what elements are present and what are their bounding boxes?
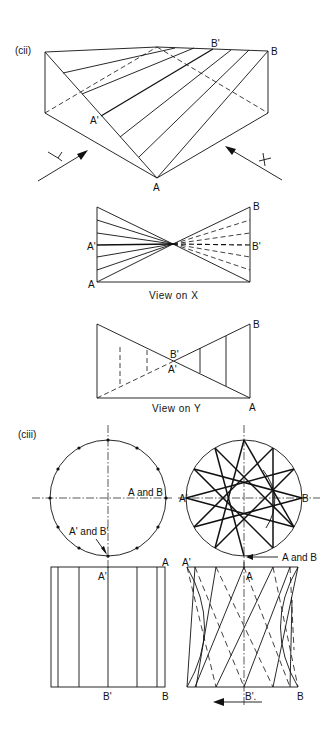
label-a: A [162,557,169,568]
label-b-prime: B'. [245,691,256,702]
label-a: A [246,571,253,582]
label-b: B [297,691,304,702]
view-on-y: B B' A' A View on Y [97,319,260,414]
label-a-prime: A' [182,557,191,568]
isometric-view: A' B' B A [38,38,282,193]
view-on-x: B B' A' A View on X [87,201,261,301]
label-b: B [271,46,278,57]
elevation-left: A A' B' B [51,557,169,702]
label-b: B [302,493,309,504]
label-b: B [162,691,169,702]
label-a-prime: A' [90,115,99,126]
view-on-x-caption: View on X [149,290,198,301]
label-a-and-b: A and B [282,552,317,563]
label-a-prime-and-b-prime: A' and B' [69,526,108,537]
label-b-prime: B' [103,691,112,702]
leader-arrow-icon [246,554,253,560]
plan-circle-right: A' B A and B [178,425,320,568]
label-a-prime: A' [87,241,96,252]
label-b-prime: B' [211,38,220,49]
label-b: B [253,319,260,330]
label-a-and-b: A and B [128,487,163,498]
ruled-surface-figure: (cii) A' B' B A [0,0,334,741]
label-b: B [253,201,260,212]
arrow-y-icon [38,150,88,181]
elevation-right-hyperboloid: A' A B'. B [182,557,304,707]
label-a-prime: A' [98,571,107,582]
plan-circle-left: A and B A' and B' [32,425,172,568]
label-a-prime: A' [179,493,188,504]
part-ciii-label: (ciii) [18,429,36,440]
part-cii-label: (cii) [15,45,31,56]
label-b-prime: B' [170,349,179,360]
label-a: A [88,279,95,290]
arrow-x-icon [225,146,282,180]
view-on-y-caption: View on Y [152,403,201,414]
label-a: A [153,182,160,193]
label-a-prime: A' [168,364,177,375]
label-b-prime: B' [252,241,261,252]
label-a: A [249,402,256,413]
